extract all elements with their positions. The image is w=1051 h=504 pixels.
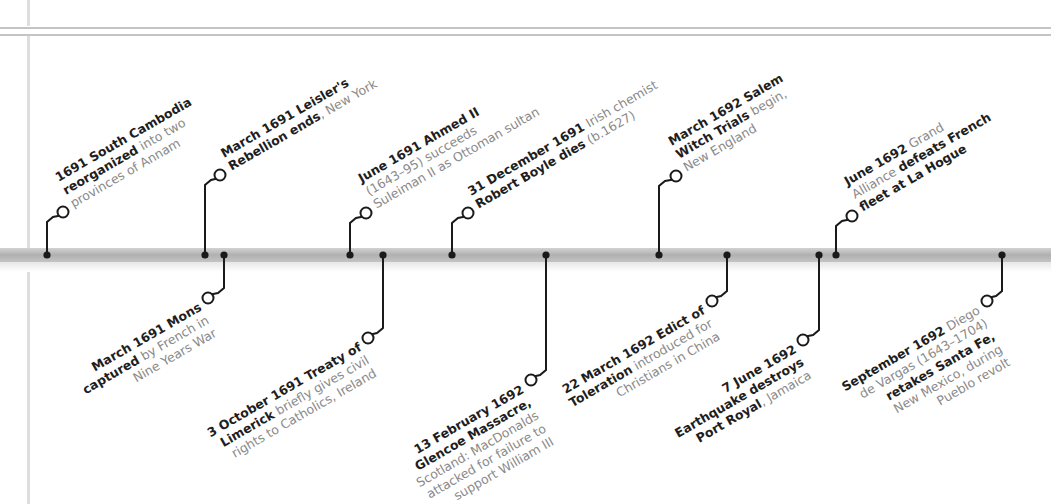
- connector-line: [716, 255, 727, 297]
- event-marker-boyle: [448, 208, 473, 259]
- connector-line: [452, 217, 464, 255]
- event-marker-limerick: [363, 251, 387, 343]
- event-circle-icon: [982, 296, 993, 307]
- event-circle-icon: [215, 170, 226, 181]
- axis-dot: [542, 251, 549, 258]
- event-marker-leisler: [201, 170, 225, 259]
- event-circle-icon: [526, 375, 537, 386]
- axis-dot: [201, 251, 208, 258]
- axis-dot: [379, 251, 386, 258]
- axis-dot: [346, 251, 353, 258]
- event-circle-icon: [707, 296, 718, 307]
- event-marker-port-royal: [798, 251, 823, 345]
- event-circle-icon: [463, 208, 474, 219]
- event-marker-mons: [203, 251, 228, 303]
- event-marker-santa-fe: [982, 251, 1006, 306]
- axis-dot: [655, 251, 662, 258]
- connector-line: [205, 179, 216, 255]
- axis-dot: [998, 251, 1005, 258]
- event-marker-ahmed-ii: [346, 208, 371, 259]
- connector-line: [991, 255, 1002, 297]
- event-circle-icon: [847, 211, 858, 222]
- axis-dot: [832, 251, 839, 258]
- event-circle-icon: [363, 333, 374, 344]
- event-marker-la-hogue: [832, 211, 857, 259]
- connector-line: [350, 217, 362, 255]
- event-circle-icon: [58, 207, 69, 218]
- event-circle-icon: [671, 171, 682, 182]
- connector-line: [372, 255, 383, 334]
- connector-line: [535, 255, 546, 376]
- connector-line: [807, 255, 819, 336]
- event-circle-icon: [203, 293, 214, 304]
- axis-dot: [815, 251, 822, 258]
- event-circle-icon: [361, 208, 372, 219]
- event-marker-south-cambodia: [43, 207, 68, 259]
- event-marker-glencoe: [526, 251, 550, 385]
- axis-dot: [220, 251, 227, 258]
- event-marker-salem: [655, 171, 681, 259]
- connector-line: [659, 180, 672, 255]
- axis-dot: [448, 251, 455, 258]
- connector-line: [212, 255, 224, 294]
- event-marker-edict-toleration: [707, 251, 731, 306]
- axis-dot: [43, 251, 50, 258]
- connector-line: [47, 216, 59, 255]
- event-circle-icon: [798, 335, 809, 346]
- connector-line: [836, 220, 848, 255]
- axis-dot: [723, 251, 730, 258]
